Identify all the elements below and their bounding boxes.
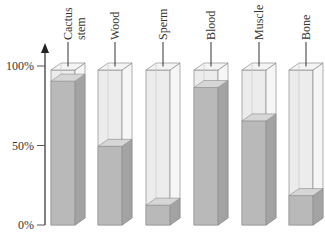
- category-label: stem: [74, 17, 88, 40]
- fill-side: [75, 74, 85, 225]
- y-axis: 0%50%100%: [6, 43, 49, 232]
- fill-front: [98, 146, 122, 225]
- fill-side: [266, 114, 276, 225]
- category-label: Sperm: [156, 8, 170, 40]
- fill-side: [218, 80, 228, 225]
- category-label: Wood: [108, 12, 122, 40]
- category-label: Muscle: [252, 5, 266, 40]
- y-tick-label: 100%: [6, 59, 34, 73]
- category-label: Blood: [204, 11, 218, 40]
- water-content-chart: 0%50%100% CactusstemWoodSpermBloodMuscle…: [0, 0, 325, 235]
- fill-front: [146, 205, 170, 225]
- category-label: Bone: [299, 15, 313, 40]
- category-label: Cactus: [61, 7, 75, 40]
- arrow-up-icon: [41, 43, 49, 53]
- y-tick-label: 50%: [12, 139, 34, 153]
- fill-front: [242, 121, 266, 225]
- y-tick-label: 0%: [18, 218, 34, 232]
- bar-bone: [289, 42, 323, 225]
- bar-cactus-stem: [51, 42, 85, 225]
- bar-blood: [194, 42, 228, 225]
- bar-muscle: [242, 42, 276, 225]
- fill-front: [289, 196, 313, 225]
- bars: [51, 42, 323, 225]
- fill-side: [122, 139, 132, 225]
- bar-wood: [98, 42, 132, 225]
- category-labels: CactusstemWoodSpermBloodMuscleBone: [61, 5, 313, 40]
- bar-sperm: [146, 42, 180, 225]
- fill-front: [51, 81, 75, 225]
- fill-front: [194, 87, 218, 225]
